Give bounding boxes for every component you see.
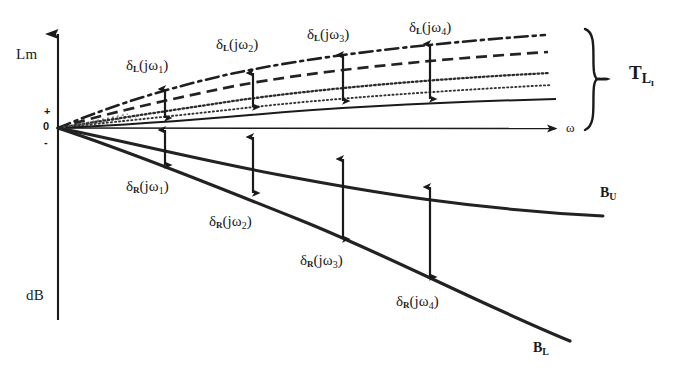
curve-upper-solid xyxy=(58,99,556,128)
label-delta-r-3: δR(jω3) xyxy=(300,253,343,270)
y-axis-unit-label: dB xyxy=(26,288,44,303)
delta-arg-close: ) xyxy=(163,57,168,73)
label-delta-l-1: δL(jω1) xyxy=(126,58,168,75)
delta-arg-open: (jω xyxy=(422,19,441,35)
delta-arg-open: (jω xyxy=(314,252,333,268)
bound-main: B xyxy=(600,185,609,200)
x-axis-label: ω xyxy=(566,121,575,134)
delta-arg-close: ) xyxy=(253,36,258,52)
brace-tl xyxy=(585,29,607,130)
curve-bu xyxy=(58,128,603,216)
delta-arg-open: (jω xyxy=(140,178,159,194)
tick-zero: 0 xyxy=(43,121,49,132)
label-delta-r-2: δR(jω2) xyxy=(209,214,252,231)
delta-arg-open: (jω xyxy=(139,57,158,73)
delta-arg-close: ) xyxy=(434,293,439,309)
label-delta-l-3: δL(jω3) xyxy=(307,27,349,44)
delta-arg-close: ) xyxy=(344,26,349,42)
label-bu: BU xyxy=(600,186,617,202)
delta-arg-close: ) xyxy=(164,178,169,194)
delta-l-arrows xyxy=(165,44,430,118)
lower-bounds-group xyxy=(58,128,603,341)
curve-upper-dashdot xyxy=(58,35,545,128)
delta-arg-open: (jω xyxy=(320,26,339,42)
tick-minus: - xyxy=(44,137,48,148)
label-delta-l-4: δL(jω4) xyxy=(409,20,451,37)
tl-subscript-l: L xyxy=(642,71,651,86)
bode-tolerance-diagram: Lm dB ω + 0 - δL(jω1) δL(jω2) δL(jω3) δL… xyxy=(0,0,696,372)
diagram-canvas xyxy=(0,0,696,372)
bound-subscript: U xyxy=(609,191,616,202)
delta-arg-close: ) xyxy=(338,252,343,268)
y-axis-label: Lm xyxy=(16,47,37,62)
delta-arg-open: (jω xyxy=(223,213,242,229)
label-delta-r-4: δR(jω4) xyxy=(396,294,439,311)
bound-main: B xyxy=(533,340,542,355)
upper-envelope-group xyxy=(58,35,556,128)
curve-bl xyxy=(58,128,570,341)
label-tl-band: TLı xyxy=(629,63,654,88)
tl-main: T xyxy=(629,62,642,83)
label-delta-r-1: δR(jω1) xyxy=(126,179,169,196)
bound-subscript: L xyxy=(542,346,549,357)
label-bl: BL xyxy=(533,341,549,357)
tl-subscript-i: ı xyxy=(651,77,654,88)
label-delta-l-2: δL(jω2) xyxy=(216,37,258,54)
delta-arg-close: ) xyxy=(446,19,451,35)
delta-arg-open: (jω xyxy=(410,293,429,309)
tick-plus: + xyxy=(44,106,50,117)
delta-arg-open: (jω xyxy=(229,36,248,52)
delta-arg-close: ) xyxy=(247,213,252,229)
delta-r-arrows xyxy=(165,130,430,277)
x-axis xyxy=(58,128,556,129)
